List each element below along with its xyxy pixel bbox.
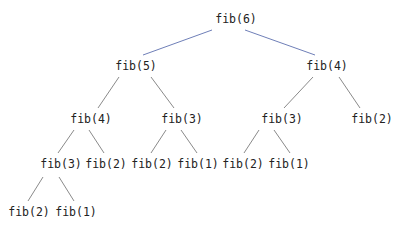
tree-node-n10: fib(1) [177, 159, 219, 171]
tree-edge-n4-n10 [181, 130, 197, 153]
recursion-tree-diagram: fib(6)fib(5)fib(4)fib(4)fib(3)fib(3)fib(… [0, 0, 398, 235]
tree-edge-n5-n11 [244, 130, 259, 153]
tree-node-n5: fib(3) [261, 114, 303, 126]
tree-edge-n0-n1 [143, 30, 212, 55]
tree-node-n6: fib(2) [351, 114, 393, 126]
tree-node-n4: fib(3) [161, 114, 203, 126]
tree-node-n14: fib(1) [55, 207, 97, 219]
tree-edge-n3-n8 [89, 130, 104, 153]
tree-edge-n7-n13 [28, 177, 43, 201]
tree-edge-n1-n3 [98, 77, 119, 108]
tree-node-n2: fib(4) [306, 61, 348, 73]
tree-edge-n5-n12 [274, 130, 290, 153]
tree-node-n13: fib(2) [8, 207, 50, 219]
tree-node-n1: fib(5) [115, 61, 157, 73]
tree-edge-n3-n7 [58, 130, 74, 153]
tree-node-n0: fib(6) [215, 14, 257, 26]
tree-edge-n7-n14 [59, 177, 74, 201]
tree-edge-n4-n9 [151, 130, 166, 153]
tree-node-n8: fib(2) [85, 159, 127, 171]
tree-node-n12: fib(1) [268, 159, 310, 171]
tree-node-n11: fib(2) [222, 159, 264, 171]
tree-edge-n2-n5 [284, 77, 313, 108]
tree-edge-n1-n4 [151, 77, 174, 108]
tree-node-n7: fib(3) [40, 159, 82, 171]
tree-node-n3: fib(4) [70, 114, 112, 126]
tree-edge-n2-n6 [339, 77, 360, 108]
tree-edge-n0-n2 [245, 30, 315, 55]
tree-node-n9: fib(2) [131, 159, 173, 171]
